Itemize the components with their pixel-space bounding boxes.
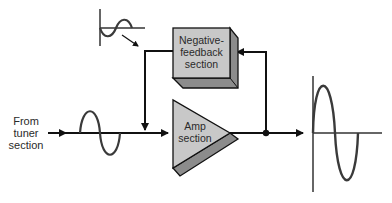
feedback-return-line (237, 52, 266, 133)
feedback-amplifier-diagram (0, 0, 392, 203)
negative-feedback-label: Negative- feedback section (173, 34, 230, 70)
amp-label-line-1: Amp (173, 120, 217, 132)
input-source-label: From tuner section (6, 115, 46, 151)
inset-pointer-arrow (122, 35, 138, 46)
amp-label-line-2: section (173, 132, 217, 144)
output-junction-dot (263, 130, 269, 136)
feedback-label-line-1: Negative- (173, 34, 230, 46)
feedback-label-line-2: feedback (173, 46, 230, 58)
input-label-line-1: From (6, 115, 46, 127)
feedback-injection-line (145, 51, 173, 130)
output-waveform (313, 76, 382, 192)
input-label-line-2: tuner (6, 127, 46, 139)
input-label-line-3: section (6, 139, 46, 151)
amp-label: Amp section (173, 120, 217, 144)
feedback-waveform-inset (100, 9, 145, 46)
feedback-label-line-3: section (173, 58, 230, 70)
